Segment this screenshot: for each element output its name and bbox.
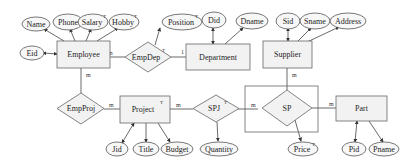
entity-employee-label: Employee: [67, 50, 100, 59]
relationship-spj-label: SPJ: [208, 104, 220, 113]
relationship-empdep-superscript: T: [162, 48, 165, 53]
attribute-sid-label: Sid: [283, 17, 294, 26]
relationship-sp[interactable]: SP: [262, 90, 312, 126]
attribute-hobby-label: Hobby: [112, 18, 134, 27]
attribute-dname-label: Dname: [240, 17, 264, 26]
relationship-empproj[interactable]: EmpProj: [57, 93, 104, 124]
card-empproj-project: m: [109, 102, 114, 108]
attribute-price[interactable]: Price T: [288, 142, 318, 156]
attribute-title-label: Title: [139, 145, 154, 154]
attribute-eid-label: Eid: [26, 49, 37, 58]
entity-supplier-label: Supplier: [274, 50, 301, 59]
attribute-jid-label: Jid: [112, 145, 121, 154]
attribute-salary-label: Salary: [82, 18, 102, 27]
attribute-sname[interactable]: Sname: [300, 13, 330, 29]
attribute-dname[interactable]: Dname: [236, 13, 268, 29]
attribute-jid[interactable]: Jid: [106, 142, 128, 156]
card-project-spj: m: [176, 102, 181, 108]
entity-department-label: Department: [199, 53, 238, 62]
card-sp-part: m: [329, 101, 334, 107]
entity-part[interactable]: Part: [336, 96, 387, 121]
attribute-address[interactable]: Address: [330, 13, 366, 29]
relationship-empdep[interactable]: EmpDep T: [125, 42, 171, 72]
attribute-sname-label: Sname: [304, 17, 326, 26]
attribute-quantity[interactable]: Quantity: [200, 142, 238, 156]
attribute-pid[interactable]: Pid: [342, 142, 366, 156]
attribute-budget-label: Budget: [165, 145, 189, 154]
attribute-hobby[interactable]: Hobby T: [109, 14, 139, 30]
relationship-spj-superscript: T: [224, 100, 227, 105]
entity-project-label: Project: [132, 105, 155, 114]
attribute-eid[interactable]: Eid: [20, 46, 44, 60]
attribute-name-label: Name: [26, 20, 46, 29]
entity-supplier[interactable]: Supplier: [263, 41, 312, 68]
entity-employee[interactable]: Employee: [57, 41, 110, 68]
attribute-title[interactable]: Title: [133, 142, 159, 156]
relationship-sp-label: SP: [283, 104, 292, 113]
attribute-position-superscript: T: [195, 14, 198, 19]
attribute-did[interactable]: Did: [202, 12, 226, 28]
attribute-pid-label: Pid: [349, 145, 360, 154]
attribute-price-label: Price: [294, 145, 311, 154]
entity-part-label: Part: [355, 104, 369, 113]
attribute-pname[interactable]: Pname: [369, 142, 399, 156]
card-spj-sp: m: [251, 102, 256, 108]
attribute-quantity-label: Quantity: [205, 145, 233, 154]
relationship-empproj-label: EmpProj: [67, 104, 95, 113]
entity-department[interactable]: Department: [186, 44, 250, 70]
entity-project-superscript: T: [160, 100, 163, 105]
attribute-position[interactable]: Position T: [162, 14, 202, 30]
card-empdep-department: 1: [181, 49, 184, 55]
attribute-salary-superscript: T: [103, 14, 106, 19]
attribute-sid[interactable]: Sid: [276, 13, 300, 29]
attribute-budget[interactable]: Budget: [161, 142, 193, 156]
er-diagram: m 1 m m m m m m Employee Department Supp…: [0, 0, 416, 168]
attribute-did-label: Did: [208, 16, 220, 25]
relationship-empdep-label: EmpDep: [132, 53, 160, 62]
card-employee-empproj: m: [86, 72, 91, 78]
attribute-hobby-superscript: T: [134, 14, 137, 19]
attribute-pname-label: Pname: [373, 145, 395, 154]
attribute-position-label: Position: [168, 18, 194, 27]
attribute-salary[interactable]: Salary T: [78, 14, 108, 30]
relationship-spj[interactable]: SPJ T: [193, 95, 239, 122]
attribute-price-superscript: T: [312, 142, 315, 147]
attribute-address-label: Address: [335, 17, 361, 26]
entity-project[interactable]: Project T: [120, 96, 170, 123]
attribute-phone-label: Phone: [58, 18, 78, 27]
attribute-name[interactable]: Name: [22, 17, 50, 31]
card-supplier-sp: m: [292, 72, 297, 78]
